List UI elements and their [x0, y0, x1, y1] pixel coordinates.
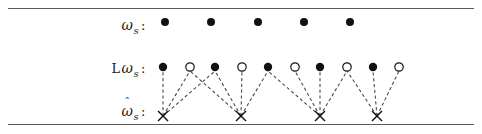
row-label-colon: :: [141, 104, 146, 119]
row-label-symbol: ω: [122, 17, 134, 33]
open-circle-marker: [291, 63, 299, 71]
dashed-link: [215, 71, 241, 116]
filled-circle-marker: [207, 18, 215, 26]
scatter-plot-canvas: [0, 0, 482, 134]
dashed-link: [268, 71, 320, 116]
dashed-link: [347, 71, 377, 116]
figure-panel: ωs: Lωs: ˆωs:: [0, 0, 482, 134]
circumflex-accent-icon: ˆ: [125, 97, 131, 108]
omega-hat-group: ˆω: [122, 104, 134, 118]
filled-circle-marker: [159, 63, 167, 71]
dashed-links-layer: [163, 71, 399, 116]
filled-circle-marker: [316, 63, 324, 71]
bottom-rule: [8, 124, 474, 125]
filled-circle-marker: [346, 18, 354, 26]
row-label-subscript: s: [133, 25, 139, 36]
x-marker: [158, 111, 168, 121]
open-circle-marker: [395, 63, 403, 71]
open-circle-marker: [186, 63, 194, 71]
dashed-link: [373, 71, 377, 116]
dashed-link: [241, 71, 268, 116]
dashed-link: [190, 71, 241, 116]
filled-circle-marker: [300, 18, 308, 26]
row-label-colon: :: [141, 18, 146, 33]
top-rule: [8, 8, 474, 9]
filled-circle-marker: [161, 18, 169, 26]
x-marker: [315, 111, 325, 121]
row-label-symbol: ω: [122, 60, 134, 76]
row-label-omega-hat-s: ˆωs:: [121, 104, 146, 122]
row-label-prefix: L: [111, 61, 120, 76]
dashed-link: [163, 71, 190, 116]
row-label-colon: :: [141, 61, 146, 76]
filled-circle-marker: [264, 63, 272, 71]
dashed-link: [320, 71, 347, 116]
filled-circle-marker: [369, 63, 377, 71]
open-circle-marker: [238, 63, 246, 71]
markers-layer: [158, 18, 403, 121]
row-label-subscript: s: [133, 68, 139, 79]
x-marker: [372, 111, 382, 121]
filled-circle-marker: [254, 18, 262, 26]
x-marker: [236, 111, 246, 121]
dashed-link: [241, 71, 242, 116]
dashed-link: [377, 71, 399, 116]
filled-circle-marker: [211, 63, 219, 71]
row-label-omega-s: ωs:: [121, 18, 146, 36]
row-label-subscript: s: [133, 111, 139, 122]
dashed-link: [295, 71, 320, 116]
open-circle-marker: [343, 63, 351, 71]
dashed-link: [163, 71, 215, 116]
row-label-l-omega-s: Lωs:: [111, 61, 146, 79]
